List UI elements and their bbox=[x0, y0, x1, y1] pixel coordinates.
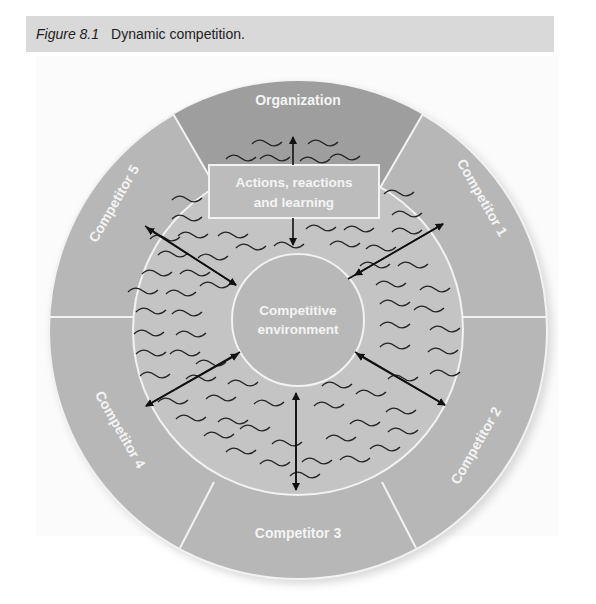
segment-label-organization: Organization bbox=[255, 92, 341, 108]
actions-box-line1: Actions, reactions bbox=[235, 175, 352, 190]
dynamic-competition-diagram: Actions, reactions and learning Competit… bbox=[0, 0, 596, 604]
actions-box-line2: and learning bbox=[254, 195, 334, 210]
center-label-line2: environment bbox=[257, 322, 339, 337]
competitive-environment-circle bbox=[232, 254, 364, 386]
center-label-line1: Competitive bbox=[259, 303, 337, 318]
actions-reactions-learning-box bbox=[209, 165, 379, 218]
segment-label-competitor-3: Competitor 3 bbox=[255, 525, 342, 541]
